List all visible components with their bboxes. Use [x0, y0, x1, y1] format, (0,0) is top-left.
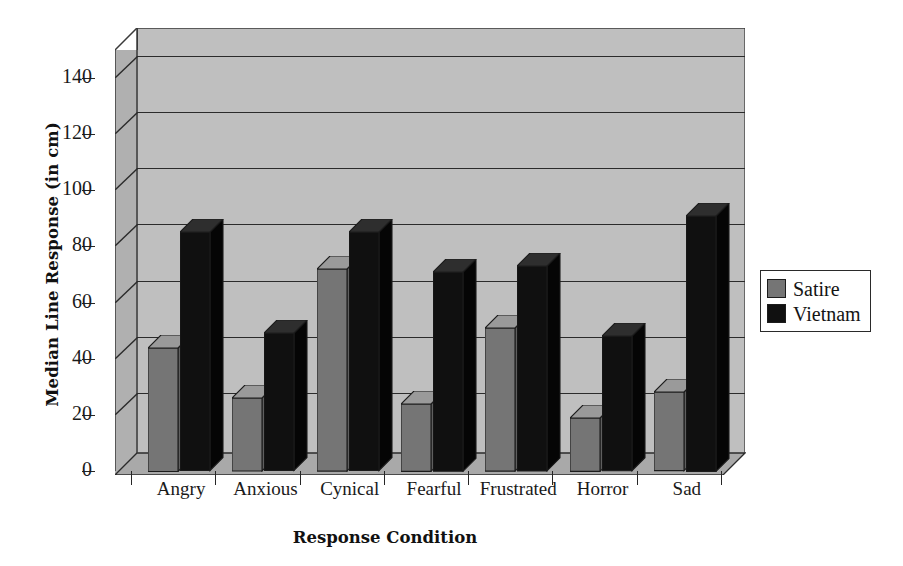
x-tick-mark [131, 471, 132, 485]
gridline-depth-connector [115, 224, 138, 246]
bar-shape [180, 219, 224, 472]
gridline [137, 112, 745, 113]
x-axis-title: Response Condition [0, 528, 770, 547]
gridline [137, 168, 745, 169]
bar-sad-satire[interactable] [654, 392, 684, 471]
plot-area [115, 28, 745, 471]
y-axis-ticks: 020406080100120140 [30, 0, 92, 566]
bar-fearful-vietnam[interactable] [433, 272, 463, 471]
bar-shape [349, 219, 393, 472]
gridline-depth-connector [115, 281, 138, 303]
y-tick-label: 120 [48, 122, 92, 142]
bar-fearful-satire[interactable] [401, 404, 431, 471]
y-tick-label: 100 [48, 178, 92, 198]
y-tick-label: 40 [48, 347, 92, 367]
bar-chart-figure: Median Line Response (in cm) 02040608010… [0, 0, 903, 566]
legend-swatch-satire [767, 279, 786, 298]
legend-label-satire: Satire [793, 279, 840, 299]
gridline-depth-connector [115, 393, 138, 415]
bar-angry-vietnam[interactable] [180, 232, 210, 471]
gridline-depth-connector [115, 337, 138, 359]
legend-item[interactable]: Satire [767, 276, 861, 301]
gridline-depth-connector [115, 168, 138, 190]
bar-sad-vietnam[interactable] [686, 216, 716, 471]
bar-frustrated-vietnam[interactable] [517, 266, 547, 471]
bar-shape [686, 203, 730, 472]
gridline-depth-connector [115, 56, 138, 78]
x-tick-mark [300, 471, 301, 485]
y-tick-label: 20 [48, 403, 92, 423]
y-tick-label: 80 [48, 234, 92, 254]
gridline [137, 56, 745, 57]
gridline [137, 224, 745, 225]
bar-cynical-satire[interactable] [317, 269, 347, 471]
y-tick-label: 60 [48, 291, 92, 311]
bar-horror-satire[interactable] [570, 418, 600, 471]
legend-label-vietnam: Vietnam [793, 304, 861, 324]
bar-shape [517, 253, 561, 472]
x-tick-mark [468, 471, 469, 485]
x-tick-mark [215, 471, 216, 485]
x-tick-mark [721, 471, 722, 485]
bar-anxious-satire[interactable] [232, 398, 262, 471]
bar-frustrated-satire[interactable] [485, 328, 515, 471]
x-tick-mark [637, 471, 638, 485]
bar-cynical-vietnam[interactable] [349, 232, 379, 471]
bar-angry-satire[interactable] [148, 348, 178, 471]
x-tick-mark [384, 471, 385, 485]
bar-horror-vietnam[interactable] [602, 336, 632, 471]
x-tick-mark [552, 471, 553, 485]
x-tick-label-sad: Sad [607, 478, 767, 500]
bar-shape [602, 323, 646, 472]
gridline-depth-connector [115, 112, 138, 134]
chart-legend: Satire Vietnam [760, 270, 871, 332]
bar-shape [264, 320, 308, 472]
y-tick-label: 140 [48, 66, 92, 86]
y-tick-label: 0 [48, 459, 92, 479]
legend-item[interactable]: Vietnam [767, 301, 861, 326]
bar-shape [433, 259, 477, 472]
legend-swatch-vietnam [767, 304, 786, 323]
bar-anxious-vietnam[interactable] [264, 333, 294, 471]
